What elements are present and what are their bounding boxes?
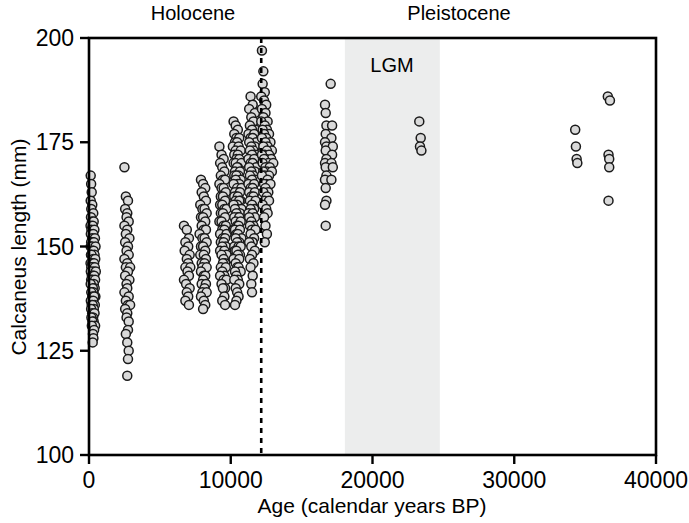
scatter-plot-figure: Holocene Pleistocene 0100002000030000400… [0,0,689,523]
data-point [328,163,337,172]
x-axis-tick-label: 0 [83,467,96,493]
data-point [121,330,130,339]
data-point [184,300,193,309]
data-point [248,288,257,297]
data-point [571,142,580,151]
y-axis-tick-label: 100 [36,442,74,468]
y-axis-tick-label: 125 [36,338,74,364]
data-point [221,300,230,309]
data-point [123,371,132,380]
data-point [246,263,255,272]
x-axis-title: Age (calendar years BP) [258,494,487,517]
data-point [417,146,426,155]
x-axis-tick-label: 20000 [341,467,405,493]
data-point [328,121,337,130]
y-axis-title: Calcaneus length (mm) [7,138,30,355]
data-point [604,196,613,205]
x-axis-tick-label: 40000 [624,467,688,493]
data-point [182,225,191,234]
data-point [326,79,335,88]
data-point [231,300,240,309]
lgm-shaded-band [345,38,440,455]
data-point [573,159,582,168]
data-point [123,355,132,364]
data-point [321,221,330,230]
data-point [415,117,424,126]
y-axis-tick-label: 175 [36,129,74,155]
data-point [605,163,614,172]
lgm-shaded-band-layer [345,38,440,455]
data-point [120,163,129,172]
x-axis-tick-label: 10000 [199,467,263,493]
y-axis-tick-label: 150 [36,234,74,260]
x-axis-tick-label: 30000 [482,467,546,493]
data-point [605,96,614,105]
data-point [321,184,330,193]
data-point [215,142,224,151]
lgm-band-label: LGM [370,54,413,76]
data-point [123,338,132,347]
data-point [199,305,208,314]
plot-canvas: 010000200003000040000100125150175200 LGM… [0,0,689,523]
data-point [321,109,330,118]
data-point [246,92,255,101]
data-point [258,79,267,88]
data-point [321,200,330,209]
data-point [262,229,271,238]
y-axis-tick-label: 200 [36,25,74,51]
data-point [571,125,580,134]
data-point [218,284,227,293]
data-point [248,271,257,280]
data-point [327,175,336,184]
